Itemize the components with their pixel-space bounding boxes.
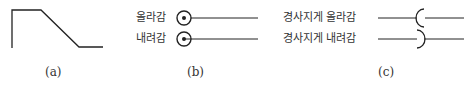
pipe-symbols-diagram bbox=[0, 0, 472, 92]
caption-a: (a) bbox=[45, 65, 62, 79]
drop-symbol bbox=[177, 32, 258, 46]
caption-b: (b) bbox=[187, 65, 204, 79]
rise-label: 올라감 bbox=[136, 11, 166, 25]
slope-drop-label: 경사지게 내려감 bbox=[283, 32, 357, 46]
drop-label: 내려감 bbox=[136, 32, 166, 46]
slope-profile-line bbox=[12, 10, 103, 48]
slope-drop-symbol bbox=[378, 30, 464, 48]
slope-rise-label: 경사지게 올라감 bbox=[283, 11, 357, 25]
rise-symbol bbox=[177, 11, 258, 25]
caption-c: (c) bbox=[378, 65, 394, 79]
slope-rise-symbol bbox=[378, 9, 464, 27]
